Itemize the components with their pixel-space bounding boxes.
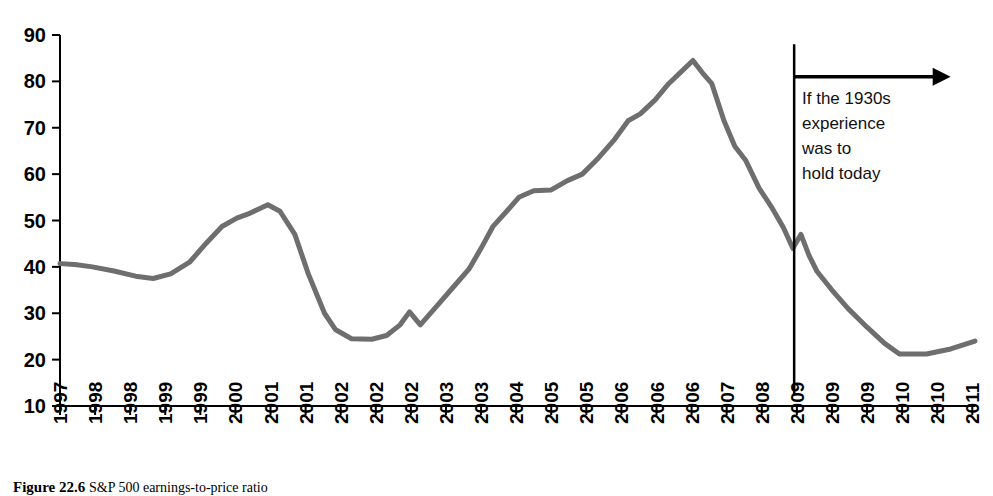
x-axis-tick-label: 2004 bbox=[506, 381, 527, 424]
x-axis-tick-label: 2002 bbox=[331, 382, 352, 424]
x-axis-tick-label: 2002 bbox=[401, 382, 422, 424]
caption-label: Figure 22.6 bbox=[13, 479, 85, 495]
x-axis-tick-label: 2002 bbox=[366, 382, 387, 424]
x-axis-tick-label: 2009 bbox=[822, 382, 843, 424]
y-axis-tick-label: 20 bbox=[24, 349, 46, 371]
x-axis-tick-label: 2011 bbox=[962, 382, 983, 424]
y-axis-tick-label: 40 bbox=[24, 256, 46, 278]
x-axis-tick-label: 2006 bbox=[611, 382, 632, 424]
y-axis-tick-label: 30 bbox=[24, 302, 46, 324]
x-axis: 1997199819981999199920002001200120022002… bbox=[50, 381, 983, 424]
y-axis-tick-label: 60 bbox=[24, 163, 46, 185]
x-axis-tick-label: 1999 bbox=[190, 382, 211, 424]
y-axis: 102030405060708090 bbox=[24, 24, 60, 417]
y-axis-tick-label: 90 bbox=[24, 24, 46, 46]
annotation-text-block: If the 1930sexperiencewas tohold today bbox=[801, 89, 891, 183]
annotation-text-line: hold today bbox=[802, 164, 881, 183]
x-axis-tick-label: 2001 bbox=[296, 381, 317, 424]
x-axis-tick-label: 2006 bbox=[647, 382, 668, 424]
y-axis-tick-label: 80 bbox=[24, 70, 46, 92]
annotation-text-line: If the 1930s bbox=[802, 89, 891, 108]
x-axis-tick-label: 2007 bbox=[717, 382, 738, 424]
y-axis-tick-label: 50 bbox=[24, 210, 46, 232]
x-axis-tick-label: 2009 bbox=[857, 382, 878, 424]
x-axis-tick-label: 2003 bbox=[471, 382, 492, 424]
x-axis-tick-label: 2000 bbox=[225, 382, 246, 424]
x-axis-tick-label: 1997 bbox=[50, 382, 71, 424]
x-axis-tick-label: 2005 bbox=[576, 381, 597, 424]
y-axis-tick-label: 70 bbox=[24, 117, 46, 139]
annotation-text-line: experience bbox=[802, 114, 885, 133]
x-axis-tick-label: 2008 bbox=[752, 382, 773, 424]
caption-body: S&P 500 earnings-to-price ratio bbox=[89, 480, 268, 495]
annotation-text-line: was to bbox=[801, 139, 851, 158]
projection-arrow-head bbox=[933, 68, 951, 86]
x-axis-tick-label: 2006 bbox=[682, 382, 703, 424]
x-axis-tick-label: 1998 bbox=[120, 382, 141, 424]
x-axis-tick-label: 1998 bbox=[85, 382, 106, 424]
x-axis-tick-label: 2005 bbox=[541, 381, 562, 424]
x-axis-tick-label: 2001 bbox=[261, 381, 282, 424]
x-axis-tick-label: 2009 bbox=[787, 382, 808, 424]
figure-caption: Figure 22.6 S&P 500 earnings-to-price ra… bbox=[13, 479, 268, 496]
x-axis-tick-label: 2010 bbox=[927, 382, 948, 424]
x-axis-tick-label: 2010 bbox=[892, 382, 913, 424]
x-axis-tick-label: 2003 bbox=[436, 382, 457, 424]
x-axis-tick-label: 1999 bbox=[155, 382, 176, 424]
y-axis-tick-label: 10 bbox=[24, 395, 46, 417]
